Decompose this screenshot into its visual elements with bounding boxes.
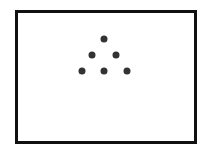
dot-6 xyxy=(124,68,131,75)
dot-5 xyxy=(101,68,108,75)
dot-1 xyxy=(101,36,108,43)
dot-4 xyxy=(79,68,86,75)
dot-2 xyxy=(89,52,96,59)
card-frame xyxy=(15,10,197,144)
dot-3 xyxy=(113,52,120,59)
